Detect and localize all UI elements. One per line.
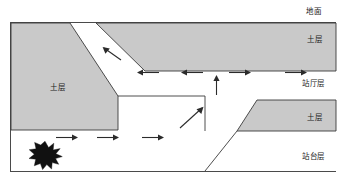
platform-arrow-2 [97, 134, 119, 140]
label-soil-top-right: 土层 [307, 36, 322, 44]
platform-arrow-3 [142, 134, 164, 140]
explosion-star-icon [29, 141, 62, 169]
label-ground-surface: 地面 [306, 8, 321, 16]
stair-incline-line [205, 131, 237, 171]
label-soil-mid-right: 土层 [307, 114, 322, 122]
vent-arrow-up [213, 75, 219, 95]
platform-arrow-1 [56, 134, 78, 140]
station-section-figure: 地面 土层 站厅层 土层 站台层 土层 [0, 0, 346, 182]
stair-arrow-up-diagonal [180, 107, 204, 128]
soil-block-left [11, 23, 118, 130]
soil-block-top-right [96, 23, 336, 71]
label-soil-left: 土层 [50, 84, 65, 92]
platform-level-arrow-group [56, 134, 164, 140]
label-station-platform-level: 站台层 [302, 153, 325, 161]
label-station-hall-level: 站厅层 [302, 80, 325, 88]
exit-arrow-up-left [103, 47, 121, 60]
